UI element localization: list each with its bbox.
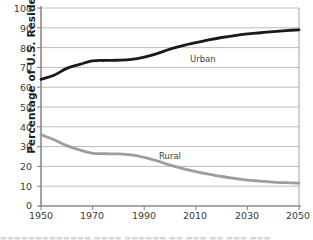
line-chart: Percentage of U.S. Residents 100 90 80 7… [0, 0, 313, 240]
series-line-urban [41, 30, 299, 80]
cutoff-caption-strip: ▬▬▬▬▬▬▬▬▬▬▬▬▬ ▬▬▬▬ ▬▬▬▬▬▬ ▬▬ ▬▬▬ ▬▬ ▬▬▬ … [0, 234, 313, 240]
plot-area [0, 0, 313, 240]
series-annotation-urban: Urban [190, 54, 216, 64]
series-annotation-rural: Rural [159, 151, 181, 161]
